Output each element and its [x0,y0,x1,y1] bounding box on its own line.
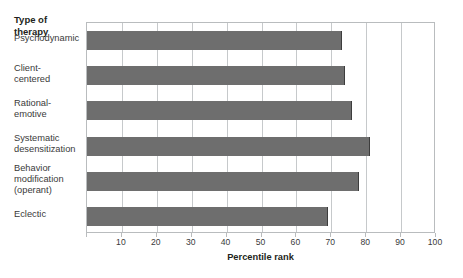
bar [87,137,370,156]
category-label: Rational-emotive [14,98,88,119]
category-label: Psychodynamic [14,33,88,44]
bars-layer [87,23,434,232]
x-tick-label: 50 [256,237,266,247]
x-tick-label: 10 [116,237,126,247]
category-axis-labels: PsychodynamicClient-centeredRational-emo… [14,22,85,233]
category-label: Behaviormodification(operant) [14,163,88,195]
bar [87,172,359,191]
x-tick-label: 60 [291,237,301,247]
category-label: Client-centered [14,63,88,84]
x-tick-label: 70 [326,237,336,247]
plot-area [86,22,435,233]
x-tick-label: 90 [395,237,405,247]
x-tick-label: 100 [428,237,442,247]
category-label: Eclectic [14,209,88,220]
bar [87,101,352,120]
x-axis-title: Percentile rank [86,252,435,262]
category-label: Systematicdesensitization [14,133,88,154]
bar [87,66,345,85]
bar [87,207,328,226]
x-tick-label: 20 [151,237,161,247]
bar-chart-figure: Type oftherapy PsychodynamicClient-cente… [0,0,463,278]
x-tick-label: 40 [221,237,231,247]
x-tick-label: 80 [360,237,370,247]
x-axis-tick-labels: 102030405060708090100 [86,237,435,250]
bar [87,31,342,50]
x-tick-label: 30 [186,237,196,247]
